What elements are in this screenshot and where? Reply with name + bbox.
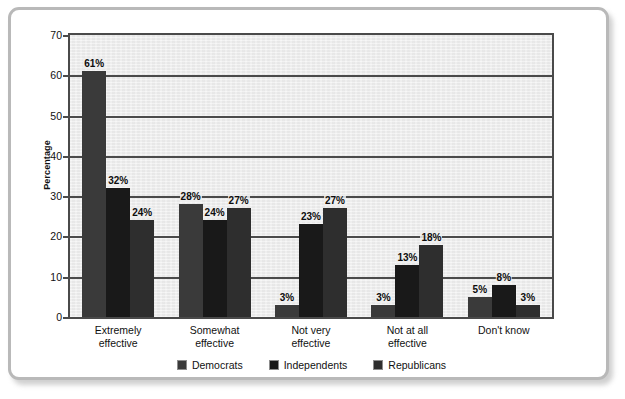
x-category-label-line: Not at all [359, 324, 455, 337]
bar: 18% [419, 245, 443, 318]
bar-value-label: 61% [83, 58, 105, 69]
bar-group: 28%24%27% [179, 35, 251, 317]
x-category-label: Not at alleffective [359, 324, 455, 349]
bar: 3% [371, 305, 395, 317]
chart-legend: DemocratsIndependentsRepublicans [11, 359, 612, 371]
legend-swatch-icon [269, 360, 279, 370]
bar-value-label: 23% [300, 211, 322, 222]
y-axis-title: Percentage [42, 105, 52, 225]
bar-value-label: 32% [107, 175, 129, 186]
legend-swatch-icon [373, 360, 383, 370]
y-tick-label-40: 40 [16, 150, 62, 162]
legend-label: Republicans [388, 359, 446, 371]
x-category-label: Somewhateffective [166, 324, 262, 349]
x-category-label: Not veryeffective [263, 324, 359, 349]
x-category-label-line: effective [166, 337, 262, 350]
bar-value-label: 5% [472, 284, 488, 295]
y-tick-label-0: 0 [16, 311, 62, 323]
bar: 27% [227, 208, 251, 317]
bar-value-label: 8% [496, 272, 512, 283]
bar: 13% [395, 265, 419, 317]
y-tick-label-10: 10 [16, 271, 62, 283]
x-category-label-line: effective [263, 337, 359, 350]
y-tick-label-20: 20 [16, 230, 62, 242]
bar-value-label: 24% [204, 207, 226, 218]
x-category-label-line: Don't know [456, 324, 552, 337]
bar-value-label: 18% [420, 232, 442, 243]
legend-swatch-icon [177, 360, 187, 370]
bar: 27% [323, 208, 347, 317]
bar-chart: Percentage 010203040506070 61%32%24%28%2… [11, 10, 612, 383]
plot-area: 61%32%24%28%24%27%3%23%27%3%13%18%5%8%3% [68, 33, 554, 319]
x-category-label: Extremelyeffective [70, 324, 166, 349]
bar: 8% [492, 285, 516, 317]
bar: 5% [468, 297, 492, 317]
bar-group: 61%32%24% [82, 35, 154, 317]
bar: 28% [179, 204, 203, 317]
bar: 23% [299, 224, 323, 317]
bar-group: 3%13%18% [371, 35, 443, 317]
x-category-label-line: effective [70, 337, 166, 350]
bar: 32% [106, 188, 130, 317]
bar-value-label: 3% [279, 292, 295, 303]
legend-item[interactable]: Democrats [177, 359, 243, 371]
bar: 3% [275, 305, 299, 317]
bar: 3% [516, 305, 540, 317]
bar: 24% [203, 220, 227, 317]
bar-value-label: 27% [228, 195, 250, 206]
y-tick-label-30: 30 [16, 190, 62, 202]
legend-item[interactable]: Independents [269, 359, 348, 371]
legend-label: Independents [284, 359, 348, 371]
x-category-label-line: Not very [263, 324, 359, 337]
legend-item[interactable]: Republicans [373, 359, 446, 371]
bar: 24% [130, 220, 154, 317]
bar-value-label: 3% [520, 292, 536, 303]
bar-value-label: 27% [324, 195, 346, 206]
legend-label: Democrats [192, 359, 243, 371]
bar-group: 5%8%3% [468, 35, 540, 317]
bar-value-label: 3% [375, 292, 391, 303]
x-category-label-line: Somewhat [166, 324, 262, 337]
bar-group: 3%23%27% [275, 35, 347, 317]
bar-value-label: 13% [396, 252, 418, 263]
figure-frame: Percentage 010203040506070 61%32%24%28%2… [8, 7, 609, 380]
y-tick-label-60: 60 [16, 69, 62, 81]
y-tick-label-70: 70 [16, 29, 62, 41]
bar: 61% [82, 71, 106, 317]
bar-value-label: 24% [131, 207, 153, 218]
y-tick-label-50: 50 [16, 110, 62, 122]
x-category-label-line: Extremely [70, 324, 166, 337]
x-category-label-line: effective [359, 337, 455, 350]
bar-value-label: 28% [180, 191, 202, 202]
x-category-label: Don't know [456, 324, 552, 337]
